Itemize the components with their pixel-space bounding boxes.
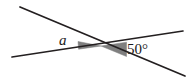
diagram-canvas bbox=[0, 0, 192, 82]
angle-label-50-degrees: 50° bbox=[127, 42, 148, 57]
angle-label-alpha: a bbox=[59, 33, 67, 48]
line-upper-left-to-lower-right bbox=[20, 7, 185, 76]
line-lower-left-to-upper-right bbox=[12, 31, 183, 57]
angle-diagram-figure: a 50° bbox=[0, 0, 192, 82]
